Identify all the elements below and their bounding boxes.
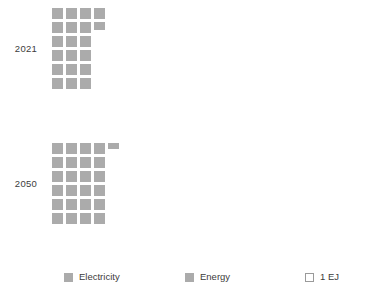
waffle-cell xyxy=(52,64,63,75)
waffle-cell xyxy=(66,22,77,33)
waffle-row xyxy=(52,213,119,224)
waffle-chart: 2021 2050 Electricity Energy 1 EJ xyxy=(0,0,372,305)
waffle-row xyxy=(52,50,105,61)
waffle-cell xyxy=(94,199,105,210)
waffle-cell xyxy=(66,185,77,196)
waffle-cell xyxy=(94,171,105,182)
waffle-cell xyxy=(80,143,91,154)
waffle-cell xyxy=(94,143,105,154)
waffle-row xyxy=(52,78,105,89)
waffle-cell xyxy=(52,171,63,182)
waffle-cell-partial xyxy=(108,143,119,149)
waffle-cell xyxy=(66,8,77,19)
waffle-cell xyxy=(66,199,77,210)
waffle-cell xyxy=(80,199,91,210)
waffle-row xyxy=(52,22,105,33)
waffle-row xyxy=(52,143,119,154)
waffle-cell xyxy=(80,171,91,182)
waffle-cell xyxy=(94,157,105,168)
waffle-cell xyxy=(80,213,91,224)
waffle-cell xyxy=(66,213,77,224)
waffle-grid-2050 xyxy=(52,143,119,224)
legend-swatch-unit-icon xyxy=(305,273,314,282)
waffle-grid-2021 xyxy=(52,8,105,89)
waffle-row xyxy=(52,36,105,47)
waffle-cell xyxy=(52,199,63,210)
waffle-group-2050: 2050 xyxy=(0,143,119,224)
legend-label-unit: 1 EJ xyxy=(320,272,339,282)
legend-swatch-electricity-icon xyxy=(64,273,73,282)
waffle-row xyxy=(52,185,119,196)
waffle-cell xyxy=(66,50,77,61)
legend-label-energy: Energy xyxy=(200,272,230,282)
waffle-cell xyxy=(52,50,63,61)
group-label-2050: 2050 xyxy=(0,179,52,189)
waffle-cell xyxy=(80,78,91,89)
waffle-cell xyxy=(66,36,77,47)
waffle-cell-partial xyxy=(94,22,105,30)
group-label-2021: 2021 xyxy=(0,44,52,54)
waffle-cell xyxy=(52,8,63,19)
waffle-group-2021: 2021 xyxy=(0,8,105,89)
waffle-cell xyxy=(80,157,91,168)
waffle-cell xyxy=(66,143,77,154)
waffle-row xyxy=(52,199,119,210)
waffle-cell xyxy=(80,185,91,196)
waffle-cell xyxy=(52,185,63,196)
waffle-cell xyxy=(80,8,91,19)
waffle-cell xyxy=(52,22,63,33)
waffle-row xyxy=(52,64,105,75)
waffle-cell xyxy=(94,185,105,196)
waffle-cell xyxy=(52,78,63,89)
waffle-cell xyxy=(52,143,63,154)
waffle-cell xyxy=(66,171,77,182)
waffle-cell xyxy=(66,157,77,168)
legend-label-electricity: Electricity xyxy=(79,272,120,282)
legend-item-energy[interactable]: Energy xyxy=(185,270,230,284)
waffle-row xyxy=(52,171,119,182)
waffle-cell xyxy=(52,157,63,168)
waffle-cell xyxy=(52,213,63,224)
waffle-cell xyxy=(66,64,77,75)
waffle-cell xyxy=(94,8,105,19)
waffle-row xyxy=(52,157,119,168)
waffle-cell xyxy=(66,78,77,89)
waffle-cell xyxy=(80,64,91,75)
legend-item-electricity[interactable]: Electricity xyxy=(64,270,120,284)
waffle-row xyxy=(52,8,105,19)
waffle-cell xyxy=(80,50,91,61)
waffle-cell xyxy=(80,22,91,33)
waffle-cell xyxy=(80,36,91,47)
waffle-cell xyxy=(94,213,105,224)
legend-item-unit[interactable]: 1 EJ xyxy=(305,270,339,284)
chart-legend: Electricity Energy 1 EJ xyxy=(0,270,372,290)
waffle-cell xyxy=(52,36,63,47)
legend-swatch-energy-icon xyxy=(185,273,194,282)
